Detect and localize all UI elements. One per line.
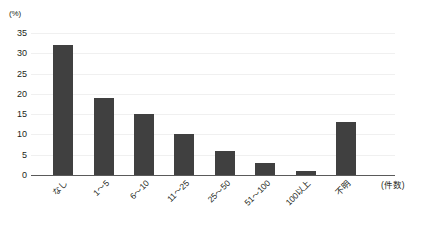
bar-slot — [84, 33, 124, 175]
bar-slot — [326, 33, 366, 175]
y-axis-tick-30: 30 — [17, 49, 27, 58]
bar — [215, 151, 235, 175]
x-axis-tick-labels: なし1～56～1011～2525～5051～100100以上不明 — [31, 176, 395, 226]
bar — [336, 122, 356, 175]
x-axis-tick-slot: なし — [43, 176, 83, 226]
x-axis-tick-label: 6～10 — [128, 178, 151, 201]
bar-slot — [286, 33, 326, 175]
x-axis-tick-label: 11～25 — [166, 178, 192, 204]
x-axis-tick-label: 51～100 — [243, 178, 273, 208]
x-axis-tick-label: 1～5 — [91, 178, 111, 198]
x-axis-tick-slot: 1～5 — [84, 176, 124, 226]
x-axis-tick-label: 不明 — [334, 178, 354, 198]
y-axis-tick-5: 5 — [22, 151, 27, 160]
bar-slot — [245, 33, 285, 175]
x-axis-tick-slot: 不明 — [326, 176, 366, 226]
x-axis-tick-label: なし — [51, 178, 71, 198]
y-axis-tick-0: 0 — [22, 171, 27, 180]
bar — [134, 114, 154, 175]
bar — [53, 45, 73, 175]
plot-area — [31, 33, 395, 175]
x-axis-tick-slot: 100以上 — [286, 176, 326, 226]
x-axis-tick-label: 25～50 — [206, 178, 232, 204]
x-axis-unit-label: (件数) — [381, 180, 405, 190]
bar — [255, 163, 275, 175]
bar — [94, 98, 114, 175]
y-axis-tick-20: 20 — [17, 90, 27, 99]
bar-chart: (%) 05101520253035 なし1～56～1011～2525～5051… — [0, 0, 427, 234]
x-axis-tick-label: 100以上 — [283, 178, 312, 207]
y-axis-tick-35: 35 — [17, 29, 27, 38]
x-axis-tick-slot: 51～100 — [245, 176, 285, 226]
bar-slot — [124, 33, 164, 175]
bar-series — [31, 33, 395, 175]
x-axis-tick-slot: 25～50 — [205, 176, 245, 226]
y-axis-tick-25: 25 — [17, 70, 27, 79]
bar — [174, 134, 194, 175]
bar-slot — [164, 33, 204, 175]
x-axis-tick-slot: 11～25 — [164, 176, 204, 226]
x-axis-tick-slot: 6～10 — [124, 176, 164, 226]
y-axis-tick-labels: 05101520253035 — [0, 33, 27, 175]
y-axis-unit-label: (%) — [9, 9, 21, 18]
bar-slot — [205, 33, 245, 175]
bar-slot — [43, 33, 83, 175]
y-axis-tick-15: 15 — [17, 110, 27, 119]
y-axis-tick-10: 10 — [17, 130, 27, 139]
